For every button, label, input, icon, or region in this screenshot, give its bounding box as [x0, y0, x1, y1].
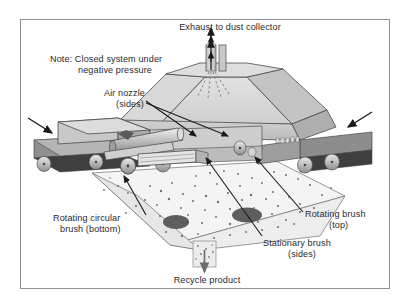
label-air-nozzle-line1: Air nozzle	[104, 88, 145, 99]
outlet-arrow-right	[348, 112, 372, 127]
label-recycle: Recycle product	[157, 275, 257, 286]
inlet-arrow-left	[28, 118, 52, 133]
exhaust-duct	[206, 43, 226, 71]
diagram-artwork	[0, 0, 419, 308]
rotating-circular-bottom-brush	[121, 158, 136, 174]
label-air-nozzle-line2: (sides)	[116, 99, 144, 110]
label-stationary-line1: Stationary brush	[263, 238, 331, 249]
label-stationary-line2: (sides)	[288, 249, 316, 260]
label-rotating-top-line1: Rotating brush	[305, 209, 366, 220]
label-note-line1: Note: Closed system under	[50, 54, 162, 65]
label-rotating-circular-line2: brush (bottom)	[60, 224, 121, 235]
label-rotating-top-line2: (top)	[329, 220, 348, 231]
label-rotating-circular-line1: Rotating circular	[53, 213, 120, 224]
diagram-canvas: Exhaust to dust collector Note: Closed s…	[0, 0, 419, 308]
collection-hopper	[92, 161, 345, 250]
recycle-chute	[193, 241, 216, 272]
label-note-line2: negative pressure	[78, 65, 152, 76]
label-exhaust: Exhaust to dust collector	[155, 22, 305, 33]
